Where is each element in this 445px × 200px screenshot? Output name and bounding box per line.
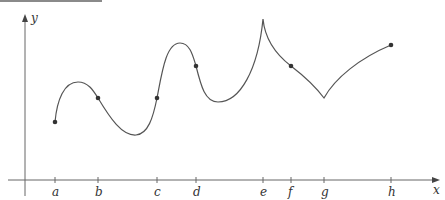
y-axis-label: y bbox=[30, 11, 38, 25]
point-a bbox=[53, 120, 58, 125]
top-rule bbox=[0, 0, 102, 2]
tick-label-c: c bbox=[154, 185, 161, 199]
marked-points bbox=[53, 43, 394, 125]
point-b bbox=[96, 96, 101, 101]
point-h bbox=[389, 43, 394, 48]
function-curve bbox=[55, 19, 391, 135]
function-graph-figure: y x a b c d e f g h bbox=[0, 0, 445, 200]
tick-label-b: b bbox=[95, 185, 103, 199]
tick-labels: a b c d e f g h bbox=[52, 185, 396, 199]
graph-canvas: y x a b c d e f g h bbox=[0, 0, 445, 200]
point-d bbox=[194, 64, 199, 69]
point-f bbox=[289, 64, 294, 69]
tick-label-e: e bbox=[260, 185, 267, 199]
tick-label-h: h bbox=[388, 185, 396, 199]
y-axis-arrow-icon bbox=[22, 14, 28, 22]
x-axis-label: x bbox=[433, 183, 440, 197]
tick-label-g: g bbox=[321, 185, 329, 199]
tick-label-a: a bbox=[52, 185, 59, 199]
tick-label-f: f bbox=[287, 185, 295, 199]
tick-label-d: d bbox=[193, 185, 201, 199]
point-c bbox=[155, 96, 160, 101]
